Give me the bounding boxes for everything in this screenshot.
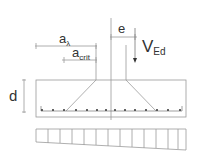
punching-cone-right (126, 80, 156, 111)
a-lambda-label: aλ (59, 31, 70, 48)
soil-pressure-diagram (36, 129, 186, 150)
a-crit-label: acrit (72, 45, 91, 62)
depth-label: d (9, 87, 17, 104)
eccentricity-label: e (118, 21, 125, 36)
punching-cone-left (66, 80, 96, 111)
load-label: VEd (142, 37, 166, 57)
footing-diagram: d aλ acrit e VEd (0, 0, 201, 162)
load-arrow-head (133, 58, 137, 63)
